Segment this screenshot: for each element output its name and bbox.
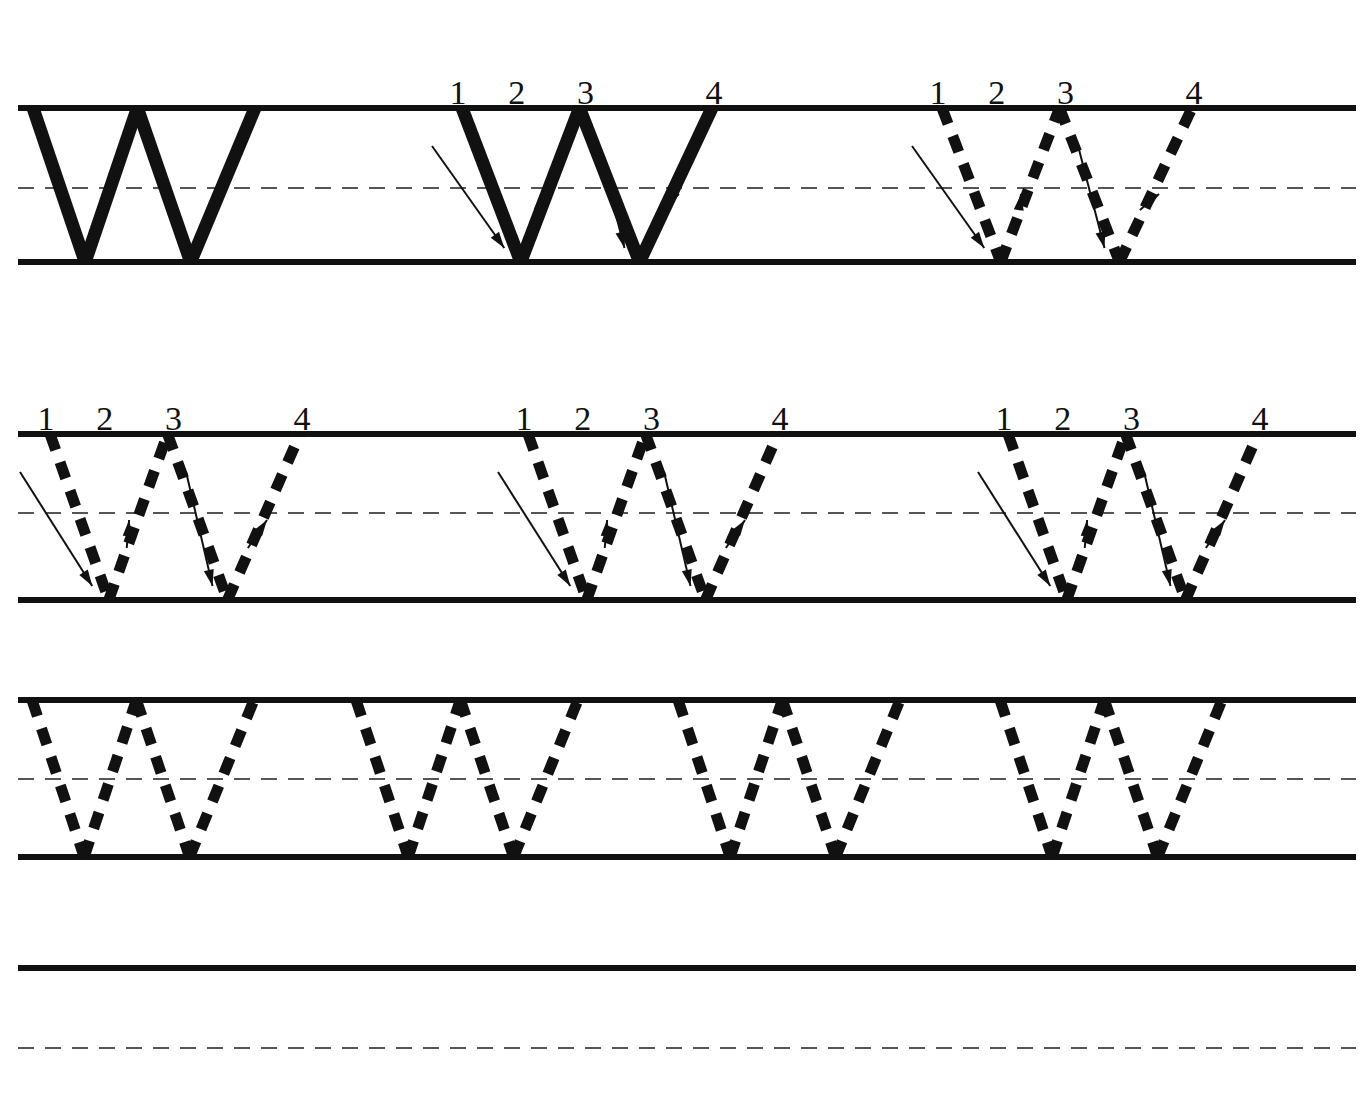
stroke-number-4: 4 xyxy=(1186,74,1203,111)
stroke-number-2: 2 xyxy=(96,400,113,437)
stroke-number-3: 3 xyxy=(643,400,660,437)
stroke-number-4: 4 xyxy=(772,400,789,437)
stroke-number-1: 1 xyxy=(38,400,55,437)
stroke-number-3: 3 xyxy=(1123,400,1140,437)
stroke-number-1: 1 xyxy=(516,400,533,437)
stroke-number-1: 1 xyxy=(450,74,467,111)
stroke-number-3: 3 xyxy=(165,400,182,437)
stroke-number-1: 1 xyxy=(996,400,1013,437)
worksheet-canvas: 12341234123412341234 xyxy=(0,0,1370,1118)
stroke-number-4: 4 xyxy=(294,400,311,437)
stroke-number-4: 4 xyxy=(1252,400,1269,437)
stroke-number-2: 2 xyxy=(508,74,525,111)
stroke-number-2: 2 xyxy=(1054,400,1071,437)
stroke-number-2: 2 xyxy=(574,400,591,437)
stroke-number-3: 3 xyxy=(1057,74,1074,111)
stroke-number-2: 2 xyxy=(988,74,1005,111)
stroke-number-3: 3 xyxy=(577,74,594,111)
stroke-number-4: 4 xyxy=(706,74,723,111)
stroke-number-1: 1 xyxy=(930,74,947,111)
